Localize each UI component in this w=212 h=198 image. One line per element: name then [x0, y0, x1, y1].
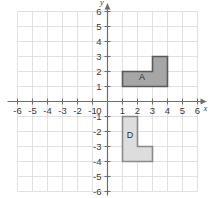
coordinate-plane-figure: -6-5-4-3-2-1123456654321-1-2-3-4-5-60xyA…: [0, 0, 212, 198]
x-tick-label: 2: [135, 105, 140, 116]
y-tick-label: 4: [96, 36, 101, 47]
y-tick-label: 5: [96, 21, 101, 32]
x-tick-label: 1: [120, 105, 125, 116]
coordinate-grid-svg: -6-5-4-3-2-1123456654321-1-2-3-4-5-60xyA…: [0, 0, 212, 198]
y-tick-label: -2: [93, 126, 101, 137]
x-tick-label: -6: [13, 105, 21, 116]
y-tick-label: 3: [96, 51, 101, 62]
x-tick-label: 6: [195, 105, 200, 116]
y-tick-label: 1: [96, 81, 101, 92]
y-tick-label: -4: [93, 156, 101, 167]
y-tick-label: 6: [96, 6, 101, 17]
shape-label-a: A: [139, 72, 145, 82]
y-tick-label: -6: [93, 186, 101, 197]
y-axis-label: y: [99, 0, 104, 7]
y-tick-label: -3: [93, 141, 101, 152]
x-tick-label: 3: [150, 105, 155, 116]
shape-label-d: D: [127, 130, 134, 140]
x-tick-label: -3: [58, 105, 66, 116]
x-tick-label: -4: [43, 105, 51, 116]
x-axis-label: x: [203, 103, 208, 113]
y-axis-arrow-icon: [105, 4, 111, 10]
x-tick-label: 5: [180, 105, 185, 116]
axes-layer: [8, 4, 207, 196]
y-tick-label: 2: [96, 66, 101, 77]
x-tick-label: -5: [28, 105, 36, 116]
x-tick-label: -2: [73, 105, 81, 116]
origin-label: 0: [96, 105, 101, 116]
y-tick-label: -5: [93, 171, 101, 182]
x-tick-label: 4: [165, 105, 170, 116]
